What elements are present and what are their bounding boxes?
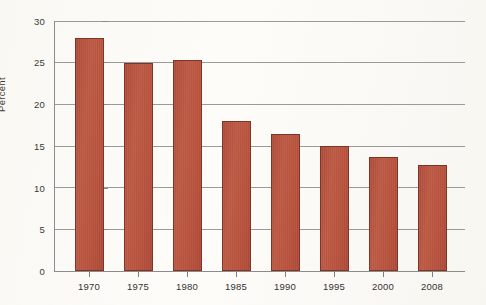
- bar-chart: 30 25 20 15 10 5 0 Percent: [0, 0, 486, 305]
- bar-1970: [75, 38, 104, 271]
- bars-group: [54, 21, 465, 271]
- y-tick-label-30: 30: [34, 16, 45, 27]
- x-tick-mark-1990: [285, 272, 286, 277]
- x-tick-label-1970: 1970: [78, 281, 100, 292]
- bar-1995: [320, 146, 349, 271]
- bar-1990: [271, 134, 300, 271]
- bar-2000: [369, 157, 398, 271]
- x-tick-mark-1975: [138, 272, 139, 277]
- bar-1975: [124, 63, 153, 271]
- y-tick-label-25: 25: [34, 57, 45, 68]
- x-tick-label-1980: 1980: [176, 281, 198, 292]
- x-tick-label-2000: 2000: [372, 281, 394, 292]
- x-tick-mark-2000: [383, 272, 384, 277]
- x-tick-mark-2008: [432, 272, 433, 277]
- chart-screenshot: 30 25 20 15 10 5 0 Percent: [0, 0, 486, 305]
- bar-1980: [173, 60, 202, 271]
- y-tick-label-5: 5: [40, 224, 45, 235]
- y-tick-label-10: 10: [34, 183, 45, 194]
- y-axis-title: Percent: [0, 77, 7, 112]
- x-tick-mark-1995: [334, 272, 335, 277]
- x-tick-label-1995: 1995: [323, 281, 345, 292]
- x-tick-mark-1985: [236, 272, 237, 277]
- x-tick-label-1990: 1990: [274, 281, 296, 292]
- y-tick-label-20: 20: [34, 99, 45, 110]
- x-axis-ticks: 1970 1975 1980 1985 1990 1995 2000 2008: [54, 272, 465, 302]
- x-tick-mark-1980: [187, 272, 188, 277]
- x-tick-label-1975: 1975: [127, 281, 149, 292]
- x-tick-label-2008: 2008: [421, 281, 443, 292]
- bar-1985: [222, 121, 251, 271]
- y-tick-label-0: 0: [40, 266, 45, 277]
- y-tick-label-15: 15: [34, 141, 45, 152]
- x-tick-mark-1970: [89, 272, 90, 277]
- bar-2008: [418, 165, 447, 271]
- x-tick-label-1985: 1985: [225, 281, 247, 292]
